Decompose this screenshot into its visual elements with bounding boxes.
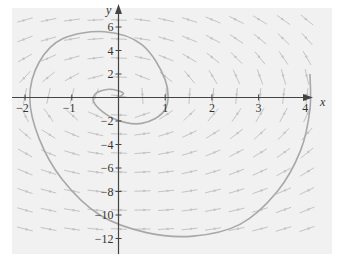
x-tick-label: 2 xyxy=(209,101,215,115)
y-tick-label: −8 xyxy=(101,185,114,199)
y-tick-label: 6 xyxy=(108,20,114,34)
x-axis-label: x xyxy=(319,95,326,109)
x-tick-label: −2 xyxy=(16,101,29,115)
x-tick-label: 3 xyxy=(256,101,262,115)
x-tick-label: 4 xyxy=(302,101,308,115)
y-tick-label: −10 xyxy=(95,208,114,222)
y-tick-label: −6 xyxy=(101,161,114,175)
y-tick-label: −12 xyxy=(95,232,114,246)
y-axis-label: y xyxy=(105,3,112,17)
y-tick-label: 2 xyxy=(108,67,114,81)
y-tick-label: −2 xyxy=(101,114,114,128)
x-tick-label: −1 xyxy=(63,101,76,115)
plot-panel xyxy=(12,8,332,254)
y-tick-label: 4 xyxy=(108,44,114,58)
phase-portrait-chart: xy−2−11234642−2−4−6−8−10−12 xyxy=(0,0,343,267)
y-tick-label: −4 xyxy=(101,138,114,152)
x-tick-label: 1 xyxy=(162,101,168,115)
